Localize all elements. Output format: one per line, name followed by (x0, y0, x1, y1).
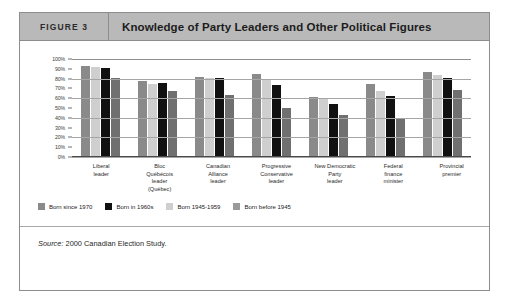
legend-label: Born 1945-1959 (177, 204, 220, 210)
legend-label: Born since 1970 (49, 204, 92, 210)
bar (168, 91, 177, 157)
category-label-line: leader (75, 171, 127, 179)
bar-group (309, 59, 349, 157)
figure-body: 0%10%20%30%40%50%60%70%80%90%100% Libera… (20, 41, 489, 291)
bar-group (81, 59, 121, 157)
bar (252, 74, 261, 157)
legend-label: Born in 1960s (116, 204, 153, 210)
figure-title: Knowledge of Party Leaders and Other Pol… (122, 21, 432, 33)
bar (225, 95, 234, 157)
x-axis-category-label: Liberalleader (75, 163, 127, 193)
legend-item: Born since 1970 (38, 203, 92, 210)
bar (101, 68, 110, 157)
y-axis-tick-mark (68, 68, 72, 69)
source-note-text: 2000 Canadian Election Study. (63, 239, 166, 248)
x-axis-category-label: New DemocraticPartyleader (309, 163, 361, 193)
y-axis-tick-mark (68, 157, 72, 158)
y-axis-tick-mark (68, 137, 72, 138)
y-axis-tick-label: 70% (55, 85, 65, 91)
bar (309, 97, 318, 157)
bar (339, 115, 348, 157)
bar (386, 96, 395, 157)
figure-number-cell: FIGURE 3 (20, 13, 109, 40)
y-axis-tick-mark (68, 78, 72, 79)
y-axis-tick-label: 90% (55, 66, 65, 72)
y-axis-tick-mark (68, 127, 72, 128)
category-label-line: Bloc (134, 163, 186, 171)
y-axis-tick-mark (68, 108, 72, 109)
bar (366, 84, 375, 158)
bar (272, 85, 281, 157)
category-label-line: premier (426, 171, 478, 179)
legend-item: Born before 1945 (233, 203, 290, 210)
bar-group (252, 59, 292, 157)
y-axis-tick-label: 10% (55, 144, 65, 150)
y-axis: 0%10%20%30%40%50%60%70%80%90%100% (41, 59, 68, 157)
y-axis-tick-label: 20% (55, 134, 65, 140)
legend-item: Born in 1960s (105, 203, 153, 210)
category-label-line: Canadian (192, 163, 244, 171)
gridline (72, 59, 471, 60)
bar (433, 75, 442, 157)
category-label-line: Federal (367, 163, 419, 171)
y-axis-tick-label: 60% (55, 95, 65, 101)
bar (423, 72, 432, 157)
category-label-line: Québécois (134, 171, 186, 179)
bar (148, 84, 157, 157)
y-axis-tick-mark (68, 147, 72, 148)
y-axis-tick-label: 80% (55, 76, 65, 82)
gridline (72, 118, 471, 119)
category-label-line: Provincial (426, 163, 478, 171)
category-label-line: leader (192, 178, 244, 186)
bar-group (138, 59, 178, 157)
legend-swatch (233, 203, 240, 210)
y-axis-tick-mark (68, 88, 72, 89)
x-axis-category-label: Federalfinanceminister (367, 163, 419, 193)
gridline (72, 79, 471, 80)
category-label-line: Liberal (75, 163, 127, 171)
bar (282, 108, 291, 157)
y-axis-tick-mark (68, 117, 72, 118)
x-axis-category-labels: LiberalleaderBlocQuébécoisleader(Québec)… (72, 163, 481, 193)
source-divider (20, 226, 489, 227)
legend-swatch (38, 203, 45, 210)
y-axis-tick-mark (68, 98, 72, 99)
category-label-line: leader (134, 178, 186, 186)
legend-swatch (166, 203, 173, 210)
x-axis-category-label: Provincialpremier (426, 163, 478, 193)
legend-swatch (105, 203, 112, 210)
category-label-line: Progressive (250, 163, 302, 171)
bar (91, 67, 100, 157)
figure-header: FIGURE 3 Knowledge of Party Leaders and … (20, 13, 489, 41)
y-axis-tick-label: 40% (55, 115, 65, 121)
y-axis-tick-label: 100% (52, 56, 65, 62)
chart-plot-area: 0%10%20%30%40%50%60%70%80%90%100% (41, 59, 471, 157)
bar (453, 90, 462, 157)
gridline (72, 157, 471, 158)
source-note-prefix: Source: (38, 239, 63, 248)
bar-groups (72, 59, 471, 157)
bar-group (423, 59, 463, 157)
bar (158, 83, 167, 157)
category-label-line: (Québec) (134, 186, 186, 194)
bar (329, 104, 338, 157)
legend-label: Born before 1945 (244, 204, 290, 210)
x-axis-category-label: CanadianAllianceleader (192, 163, 244, 193)
category-label-line: finance (367, 171, 419, 179)
chart-grid-region (72, 59, 471, 157)
bar-group (195, 59, 235, 157)
x-axis-category-label: BlocQuébécoisleader(Québec) (134, 163, 186, 193)
chart-legend: Born since 1970Born in 1960sBorn 1945-19… (38, 203, 291, 210)
bar (376, 91, 385, 157)
gridline (72, 98, 471, 99)
category-label-line: leader (309, 178, 361, 186)
x-axis-category-label: ProgressiveConservativeleader (250, 163, 302, 193)
source-note: Source: 2000 Canadian Election Study. (38, 239, 166, 248)
y-axis-tick-label: 50% (55, 105, 65, 111)
legend-item: Born 1945-1959 (166, 203, 220, 210)
y-axis-tick-label: 30% (55, 125, 65, 131)
bar-group (366, 59, 406, 157)
figure-container: FIGURE 3 Knowledge of Party Leaders and … (19, 12, 490, 291)
category-label-line: Party (309, 171, 361, 179)
category-label-line: New Democratic (309, 163, 361, 171)
